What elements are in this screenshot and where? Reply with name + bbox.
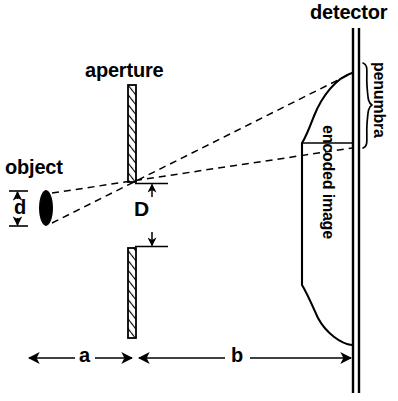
encoded-image-label: encoded image	[320, 125, 336, 239]
aperture-lower-bar	[128, 248, 136, 338]
object-size-label: d	[14, 197, 26, 217]
detector-plane	[353, 28, 359, 393]
ray-bundle	[52, 73, 352, 223]
detector-label: detector	[310, 2, 387, 22]
distance-a-label: a	[79, 345, 90, 365]
aperture-diameter-label: D	[134, 198, 149, 219]
penumbra-label: penumbra	[371, 62, 387, 138]
aperture-upper-bar	[128, 85, 136, 182]
pinhole-camera-diagram	[0, 0, 398, 401]
object-label: object	[5, 157, 63, 177]
object-ellipse	[40, 191, 53, 226]
object-group	[40, 191, 53, 226]
ray-object-top-to-detector	[52, 148, 352, 193]
aperture-label: aperture	[85, 60, 163, 80]
distance-b-label: b	[231, 345, 243, 365]
figure-canvas: detector aperture object d D a b penumbr…	[0, 0, 398, 401]
ray-object-bottom-to-detector	[52, 73, 352, 223]
